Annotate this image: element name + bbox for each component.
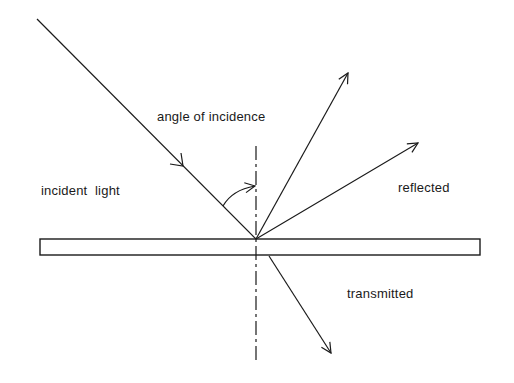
angle-of-incidence-label: angle of incidence bbox=[157, 109, 265, 124]
incident-light-label: incident light bbox=[41, 183, 120, 198]
glass-slab bbox=[40, 239, 480, 255]
angle-arc bbox=[223, 186, 255, 206]
transmitted-label: transmitted bbox=[347, 286, 414, 301]
transmitted-ray bbox=[269, 256, 331, 353]
reflected-label: reflected bbox=[398, 180, 450, 195]
reflected-ray-2 bbox=[256, 143, 418, 239]
reflected-ray-1 bbox=[256, 73, 348, 239]
